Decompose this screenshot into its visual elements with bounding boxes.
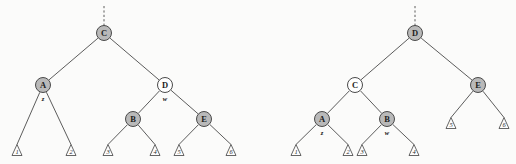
edge-n-b-leaf-4	[138, 125, 155, 144]
edge-m-e-leaf-a6	[483, 91, 504, 117]
tree-node-label: D	[412, 28, 418, 38]
edge-m-e-leaf-a5	[451, 91, 473, 117]
edge-m-b-leaf-a4	[393, 124, 414, 144]
pointer-label-w: w	[385, 129, 390, 136]
edge-n-e-leaf-6	[210, 124, 231, 144]
edge-n-c-n-a	[49, 38, 98, 80]
edge-m-a-leaf-a2	[328, 125, 348, 145]
subtree-label: 1	[294, 148, 297, 155]
tree-node-label: A	[319, 114, 326, 124]
tree-node-label: C	[352, 80, 358, 90]
subtree-label: 1	[15, 148, 18, 155]
edge-m-c-m-a	[327, 91, 349, 114]
red-black-tree-rotation-diagram: 123456CADBEzw123456DCEABzw	[0, 0, 516, 164]
tree-node-label: B	[130, 114, 136, 124]
pointer-label-w: w	[163, 95, 168, 102]
before-rotation: 123456CADBEzw	[12, 6, 236, 156]
pointer-label-z: z	[320, 129, 324, 136]
edge-n-c-n-d	[110, 38, 159, 80]
tree-node-label: E	[201, 114, 207, 124]
tree-node-label: C	[101, 28, 107, 38]
edge-n-d-n-b	[138, 91, 159, 114]
pointer-label-z: z	[41, 95, 45, 102]
edge-n-d-n-e	[171, 90, 198, 114]
edge-m-b-leaf-a3	[362, 125, 381, 145]
tree-node-label: A	[40, 80, 47, 90]
edge-n-b-leaf-3	[108, 125, 127, 145]
after-rotation: 123456DCEABzw	[291, 6, 509, 156]
edge-n-a-leaf-1	[17, 92, 40, 144]
edge-n-a-leaf-2	[46, 92, 71, 144]
edge-m-c-m-b	[360, 91, 381, 114]
edge-m-d-m-c	[361, 38, 409, 80]
tree-node-label: B	[384, 114, 390, 124]
edge-n-e-leaf-5	[179, 125, 198, 145]
tree-node-label: E	[475, 80, 481, 90]
figure-canvas: 123456CADBEzw123456DCEABzw	[0, 0, 516, 164]
edge-m-a-leaf-a1	[296, 125, 316, 145]
edge-m-d-m-e	[421, 38, 472, 80]
tree-node-label: D	[162, 80, 168, 90]
